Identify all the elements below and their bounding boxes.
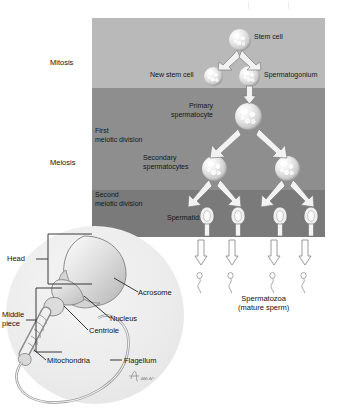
cell-secondary-spermatocyte [202,156,227,181]
label-acrosome: Acrosome [138,288,172,297]
label-primary-spermatocyte: Primary spermatocyte [171,102,213,119]
arrow-spermatid-to-spermatozoon [298,240,312,266]
cell-secondary-spermatocyte [275,156,300,181]
spermatozoon [193,272,209,294]
spermatid [272,206,288,236]
label-spermatids: Spermatids [167,214,202,223]
arrow-secondary-to-spermatid [290,180,316,208]
scan-artifact [248,2,249,9]
label-mitosis: Mitosis [50,58,73,67]
scan-artifact [288,2,289,9]
arrow-spermatid-to-spermatozoon [194,240,208,266]
label-nucleus: Nucleus [110,314,137,323]
arrow-primary-to-secondary-right [256,129,290,159]
label-head: Head [7,254,25,263]
artist-signature [128,368,162,384]
label-flagellum: Flagellum [124,356,157,365]
label-mitochondria: Mitochondria [47,356,90,365]
label-meiosis: Meiosis [50,158,75,167]
cell-stem [229,29,251,51]
cell-primary-spermatocyte [235,103,262,130]
spermatozoon [297,272,313,294]
label-secondary-spermatocytes: Secondary spermatocytes [143,154,189,171]
label-spermatogonium: Spermatogonium [264,71,317,80]
arrow-secondary-to-spermatid [186,180,212,208]
label-middle-piece: Middle piece [2,310,24,328]
figure-canvas: First meiotic division Second meiotic di… [0,0,342,414]
arrow-stem-to-spermatogonium [238,50,264,70]
arrow-spermatid-to-spermatozoon [225,240,239,266]
label-new-stem-cell: New stem cell [150,71,194,80]
label-stem-cell: Stem cell [254,33,283,42]
arrow-secondary-to-spermatid [259,180,285,208]
spermatid [303,206,319,236]
label-spermatozoa: Spermatozoa (mature sperm) [238,294,289,312]
spermatozoon [266,272,282,294]
spermatid [230,206,246,236]
arrow-stem-to-new-stem [210,50,240,70]
arrow-secondary-to-spermatid [217,180,243,208]
label-second-meiotic-division: Second meiotic division [95,191,142,208]
label-first-meiotic-division: First meiotic division [95,127,142,144]
arrow-spermatid-to-spermatozoon [267,240,281,266]
spermatogenesis-panel: First meiotic division Second meiotic di… [92,18,325,237]
arrow-primary-to-secondary-left [207,129,241,159]
spermatozoon [224,272,240,294]
arrow-spermatogonium-to-primary [242,86,257,104]
label-centriole: Centriole [89,326,119,335]
spermatid [199,206,215,236]
